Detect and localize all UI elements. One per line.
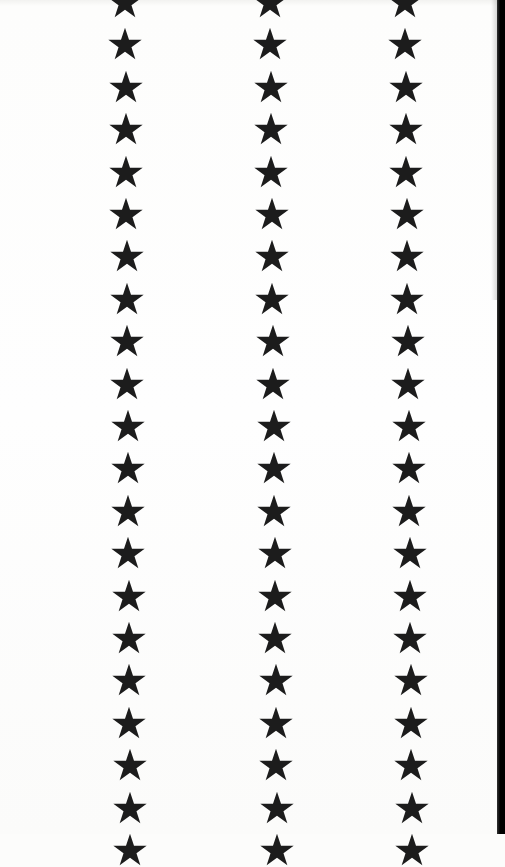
- star-icon: [260, 791, 294, 825]
- star-icon: [390, 282, 424, 316]
- star-icon: [389, 155, 423, 189]
- star-icon: [255, 197, 289, 231]
- star-icon: [392, 409, 426, 443]
- star-icon: [113, 833, 147, 867]
- star-icon: [394, 748, 428, 782]
- star-icon: [108, 27, 142, 61]
- star-icon: [112, 621, 146, 655]
- star-icon: [394, 706, 428, 740]
- star-icon: [110, 324, 144, 358]
- star-icon: [390, 239, 424, 273]
- star-icon: [389, 112, 423, 146]
- star-icon: [254, 70, 288, 104]
- star-icon: [254, 155, 288, 189]
- star-icon: [391, 367, 425, 401]
- star-icon: [256, 324, 290, 358]
- star-icon: [109, 155, 143, 189]
- star-icon: [393, 536, 427, 570]
- star-icon: [254, 112, 288, 146]
- star-icon: [388, 27, 422, 61]
- star-icon: [111, 536, 145, 570]
- star-icon: [111, 409, 145, 443]
- star-icon: [109, 70, 143, 104]
- star-icon: [110, 239, 144, 273]
- star-icon: [390, 197, 424, 231]
- star-icon: [258, 536, 292, 570]
- star-icon: [111, 451, 145, 485]
- star-icon: [258, 579, 292, 613]
- star-icon: [255, 282, 289, 316]
- star-icon: [110, 282, 144, 316]
- star-icon: [259, 706, 293, 740]
- star-icon: [113, 791, 147, 825]
- star-icon: [255, 239, 289, 273]
- dark-right-edge: [497, 0, 505, 834]
- star-icon: [260, 833, 294, 867]
- star-icon: [394, 663, 428, 697]
- star-icon: [257, 451, 291, 485]
- star-icon: [392, 451, 426, 485]
- star-icon: [112, 706, 146, 740]
- star-icon: [112, 663, 146, 697]
- star-icon: [393, 579, 427, 613]
- star-icon: [109, 112, 143, 146]
- star-icon: [259, 748, 293, 782]
- star-icon: [257, 494, 291, 528]
- star-icon: [109, 197, 143, 231]
- star-icon: [258, 621, 292, 655]
- star-icon: [112, 579, 146, 613]
- star-icon: [395, 791, 429, 825]
- star-icon: [253, 27, 287, 61]
- star-icon: [395, 833, 429, 867]
- star-icon: [393, 621, 427, 655]
- star-icon: [388, 0, 422, 19]
- star-icon: [110, 367, 144, 401]
- star-icon: [389, 70, 423, 104]
- star-icon: [253, 0, 287, 19]
- star-icon: [391, 324, 425, 358]
- star-icon: [259, 663, 293, 697]
- star-icon: [256, 367, 290, 401]
- star-icon: [111, 494, 145, 528]
- star-icon: [113, 748, 147, 782]
- star-icon: [392, 494, 426, 528]
- star-icon: [108, 0, 142, 19]
- star-icon: [257, 409, 291, 443]
